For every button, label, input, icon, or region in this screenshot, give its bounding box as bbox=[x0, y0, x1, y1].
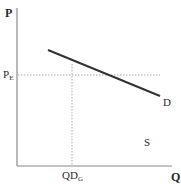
quantity-label-main: QD bbox=[62, 169, 78, 181]
price-label-sub: E bbox=[9, 74, 13, 82]
region-s-label: S bbox=[144, 137, 150, 148]
demand-curve-label: D bbox=[163, 97, 171, 108]
quantity-label-sub: G bbox=[78, 175, 83, 183]
diagram-canvas bbox=[0, 0, 181, 184]
price-equilibrium-label: PE bbox=[3, 69, 13, 82]
y-axis-label: P bbox=[5, 7, 12, 19]
x-axis-label: Q bbox=[171, 171, 180, 183]
quantity-label: QDG bbox=[62, 170, 83, 183]
demand-curve bbox=[48, 50, 160, 96]
